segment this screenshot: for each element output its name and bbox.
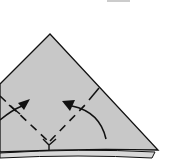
origami-diagram xyxy=(0,0,174,161)
paper-triangle xyxy=(0,34,158,152)
